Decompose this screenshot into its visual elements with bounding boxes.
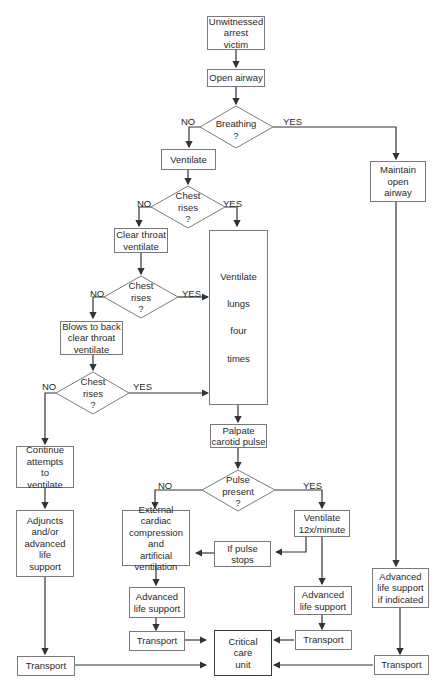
ventilate-lungs-node: Ventilate lungs four times — [209, 230, 268, 405]
als-left-node: Advanced life support — [129, 587, 185, 618]
ventilate-12-node: Ventilate 12x/minute — [294, 510, 350, 537]
chest2-yes-label: YES — [182, 289, 201, 299]
blows-to-back-node: Blows to back clear throat ventilate — [60, 321, 123, 355]
pulse-present-decision: Pulse present ? — [222, 474, 254, 509]
als-if-indicated-node: Advanced life support if indicated — [372, 568, 429, 608]
maintain-airway-node: Maintain open airway — [370, 161, 426, 202]
breathing-no-label: NO — [181, 117, 195, 127]
chest1-yes-label: YES — [223, 199, 242, 209]
chest-rises-decision-3: Chest rises ? — [81, 376, 106, 411]
breathing-decision: Breathing ? — [216, 118, 257, 141]
transport-left-node: Transport — [129, 631, 185, 651]
transport-far-left-node: Transport — [17, 656, 75, 676]
pulse-no-label: NO — [158, 481, 172, 491]
breathing-yes-label: YES — [283, 117, 302, 127]
ventilate-lungs-line-4: times — [227, 353, 250, 365]
ventilate-lungs-line-1: Ventilate — [220, 271, 256, 283]
transport-far-right-node: Transport — [374, 655, 429, 675]
if-pulse-stops-node: If pulse stops — [214, 541, 271, 567]
open-airway-node: Open airway — [207, 69, 265, 87]
ventilate-lungs-line-2: lungs — [227, 298, 250, 310]
chest1-no-label: NO — [137, 199, 151, 209]
palpate-node: Palpate carotid pulse — [210, 424, 267, 448]
continue-attempts-node: Continue attempts to ventilate — [16, 446, 74, 488]
chest3-no-label: NO — [42, 382, 56, 392]
als-right-node: Advanced life support — [294, 586, 352, 615]
start-node: Unwitnessed arrest victim — [207, 16, 265, 50]
chest-rises-decision-2: Chest rises ? — [129, 280, 154, 315]
chest-rises-decision-1: Chest rises ? — [176, 190, 201, 225]
ventilate-node: Ventilate — [161, 149, 216, 170]
chest3-yes-label: YES — [133, 382, 152, 392]
critical-care-unit-node: Critical care unit — [214, 630, 272, 676]
chest2-no-label: NO — [90, 289, 104, 299]
external-cardiac-node: External cardiac compression and artific… — [122, 510, 190, 566]
clear-throat-node: Clear throat ventilate — [114, 228, 168, 253]
pulse-yes-label: YES — [303, 481, 322, 491]
ventilate-lungs-line-3: four — [230, 325, 246, 337]
transport-right-node: Transport — [295, 630, 352, 650]
adjuncts-node: Adjuncts and/or advanced life support — [16, 510, 74, 577]
